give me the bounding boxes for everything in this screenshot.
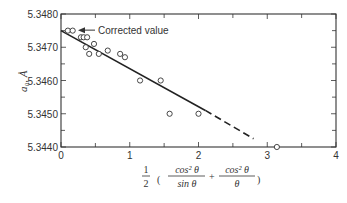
data-point	[105, 48, 110, 53]
data-point	[87, 51, 92, 56]
fit-line	[61, 31, 254, 139]
data-point	[70, 28, 75, 33]
data-point	[274, 144, 279, 149]
annotation: Corrected value	[78, 25, 169, 36]
xlabel-plus: +	[209, 171, 215, 182]
data-points	[65, 28, 279, 150]
data-point	[137, 78, 142, 83]
x-tick-label: 1	[127, 150, 133, 161]
xlabel-half-num: 1	[144, 164, 149, 175]
x-tick-label: 2	[196, 150, 202, 161]
data-point	[85, 35, 90, 40]
y-tick-label: 5.3480	[27, 9, 58, 20]
data-point	[118, 51, 123, 56]
data-point	[167, 111, 172, 116]
x-tick-label: 3	[264, 150, 270, 161]
x-tick-label: 4	[333, 150, 339, 161]
annotation-arrow-head	[78, 27, 85, 33]
xlabel-rparen: )	[257, 174, 260, 186]
data-point	[91, 41, 96, 46]
y-tick-label: 5.3440	[27, 142, 58, 153]
y-tick-label: 5.3470	[27, 42, 58, 53]
y-axis-label: a₀, Å	[17, 70, 29, 92]
chart: 012345.34405.34505.34605.34705.3480 Corr…	[0, 0, 347, 203]
xlabel-frac1-den: sin θ	[177, 178, 196, 189]
data-point	[96, 51, 101, 56]
data-point	[196, 111, 201, 116]
xlabel-half-den: 2	[144, 178, 149, 189]
fit-line-solid	[61, 31, 205, 111]
xlabel-lparen: (	[157, 174, 161, 186]
data-point	[83, 45, 88, 50]
fit-line-extrapolated	[205, 110, 253, 138]
y-tick-label: 5.3450	[27, 109, 58, 120]
x-axis-label: 1 2 ( cos² θ sin θ + cos² θ θ )	[142, 164, 260, 189]
y-tick-label: 5.3460	[27, 76, 58, 87]
annotation-text: Corrected value	[98, 25, 169, 36]
x-tick-label: 0	[58, 150, 64, 161]
xlabel-frac2-den: θ	[235, 178, 240, 189]
data-point	[158, 78, 163, 83]
xlabel-frac1-num: cos² θ	[175, 164, 199, 175]
xlabel-frac2-num: cos² θ	[225, 164, 249, 175]
data-point	[122, 55, 127, 60]
